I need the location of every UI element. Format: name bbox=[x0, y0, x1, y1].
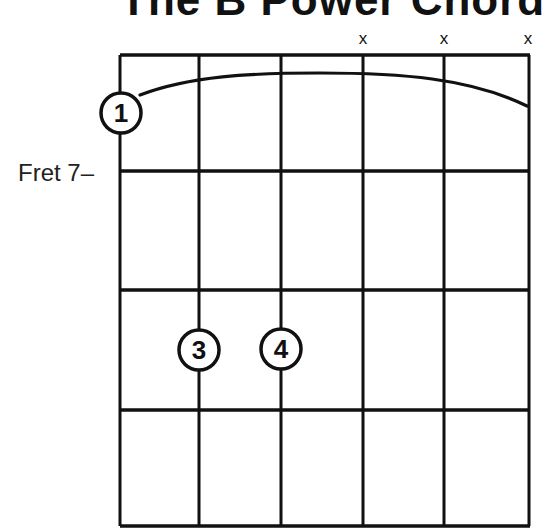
finger-marker-3: 3 bbox=[179, 330, 219, 370]
fret-number-label: Fret 7– bbox=[18, 159, 95, 186]
mute-marker-string-4: x bbox=[359, 29, 368, 48]
finger-number: 1 bbox=[114, 98, 128, 128]
mute-marker-string-5: x bbox=[440, 29, 449, 48]
finger-marker-4: 4 bbox=[261, 329, 301, 369]
finger-marker-1: 1 bbox=[101, 93, 141, 133]
muted-string-markers: x x x bbox=[359, 29, 533, 48]
fret-lines bbox=[120, 55, 530, 526]
finger-number: 4 bbox=[274, 334, 289, 364]
finger-number: 3 bbox=[192, 335, 206, 365]
mute-marker-string-6: x bbox=[524, 29, 533, 48]
